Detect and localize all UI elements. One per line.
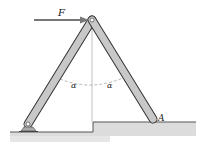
force-label: F	[57, 7, 66, 18]
left-member	[28, 20, 92, 124]
angle-left-label: α	[71, 81, 77, 90]
angle-arc	[60, 77, 125, 85]
truss-diagram: F α α A	[0, 0, 206, 142]
right-member	[92, 20, 153, 119]
apex-pin	[90, 18, 94, 22]
angle-right-label: α	[107, 81, 113, 90]
point-a-label: A	[157, 113, 165, 123]
pin-support	[19, 122, 38, 132]
